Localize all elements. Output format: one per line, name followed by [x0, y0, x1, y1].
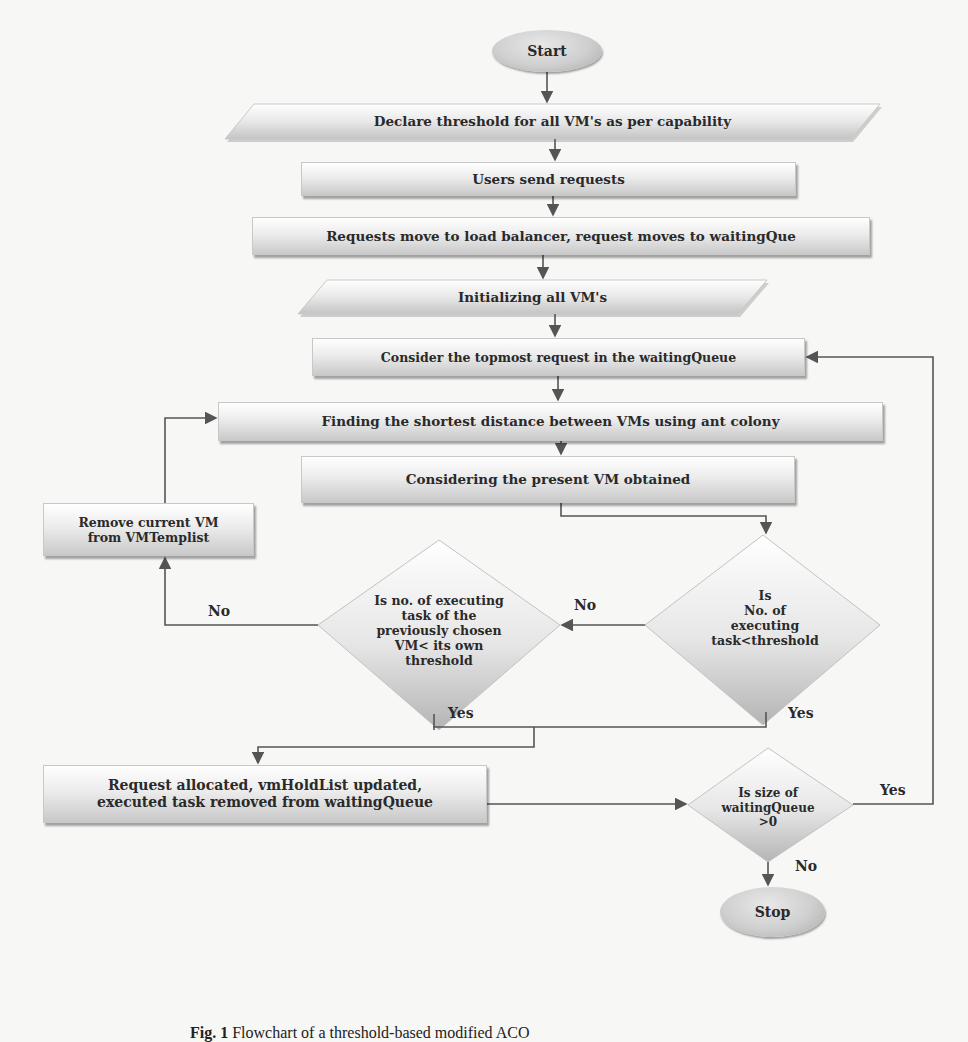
- edge-label-no-prev: No: [208, 603, 230, 619]
- declare-threshold-step: Declare threshold for all VM's as per ca…: [230, 104, 875, 139]
- remove-vm-step: Remove current VM from VMTemplist: [43, 503, 254, 556]
- request-allocated-step: Request allocated, vmHoldList updated, e…: [43, 765, 487, 823]
- initializing-label: Initializing all VM's: [458, 289, 607, 305]
- caption-text: Flowchart of a threshold-based modified …: [232, 1024, 529, 1041]
- allocated-label-line2: executed task removed from waitingQueue: [97, 794, 433, 811]
- users-label: Users send requests: [472, 171, 625, 187]
- decision-size-label: Is size of waitingQueue >0: [700, 780, 836, 836]
- edge-label-yes-prev: Yes: [448, 705, 474, 721]
- flowchart: Start Stop Declare threshold for all VM'…: [0, 0, 968, 1042]
- edge-label-yes-size: Yes: [880, 782, 906, 798]
- requests-move-label: Requests move to load balancer, request …: [326, 228, 796, 244]
- remove-label-line1: Remove current VM: [78, 515, 218, 530]
- considering-present-step: Considering the present VM obtained: [301, 456, 795, 503]
- stop-label: Stop: [755, 904, 791, 921]
- users-send-requests-step: Users send requests: [301, 162, 796, 196]
- edge-label-no-threshold: No: [574, 597, 596, 613]
- start-terminal: Start: [492, 30, 602, 72]
- considering-present-label: Considering the present VM obtained: [406, 471, 690, 487]
- allocated-label-line1: Request allocated, vmHoldList updated,: [108, 777, 422, 794]
- stop-terminal: Stop: [720, 887, 825, 937]
- decision-prev-label: Is no. of executing task of the previous…: [340, 585, 538, 675]
- remove-label-line2: from VMTemplist: [88, 530, 210, 545]
- consider-topmost-label: Consider the topmost request in the wait…: [381, 350, 736, 365]
- initializing-step: Initializing all VM's: [300, 280, 765, 314]
- decision-threshold-label: Is No. of executing task<threshold: [680, 578, 850, 658]
- consider-topmost-step: Consider the topmost request in the wait…: [312, 338, 805, 376]
- start-label: Start: [527, 43, 567, 60]
- edge-label-no-size: No: [795, 858, 817, 874]
- caption-label: Fig. 1: [190, 1024, 228, 1041]
- figure-caption: Fig. 1 Flowchart of a threshold-based mo…: [190, 1024, 530, 1042]
- requests-move-step: Requests move to load balancer, request …: [252, 217, 870, 255]
- finding-label: Finding the shortest distance between VM…: [321, 413, 779, 429]
- edge-label-yes-threshold: Yes: [788, 705, 814, 721]
- declare-label: Declare threshold for all VM's as per ca…: [374, 113, 731, 129]
- finding-shortest-step: Finding the shortest distance between VM…: [218, 402, 883, 441]
